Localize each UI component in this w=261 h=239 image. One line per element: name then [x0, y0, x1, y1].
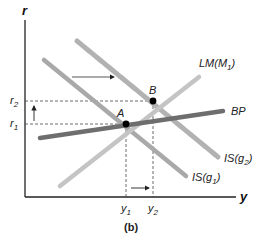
point-a-label: A [116, 107, 124, 119]
y2-tick-label: y2 [147, 202, 159, 217]
point-b-marker [150, 98, 157, 105]
is-lm-bp-diagram: r y A B r2 r1 y1 y2 LM(M1) BP IS(g2) IS(… [0, 0, 261, 239]
r-axis-label: r [22, 3, 28, 18]
is-g1-curve-label: IS(g1) [192, 171, 221, 186]
point-a-marker [123, 121, 130, 128]
is-g2-curve-label: IS(g2) [224, 152, 253, 167]
r2-tick-label: r2 [10, 94, 19, 109]
figure-caption: (b) [124, 221, 138, 233]
lm-curve-label: LM(M1) [199, 57, 236, 72]
r1-tick-label: r1 [10, 117, 18, 132]
y1-tick-label: y1 [120, 202, 131, 217]
point-b-label: B [149, 84, 156, 96]
y-axis-label: y [239, 189, 248, 204]
is-g2-curve [77, 41, 218, 157]
bp-curve-label: BP [231, 105, 246, 117]
